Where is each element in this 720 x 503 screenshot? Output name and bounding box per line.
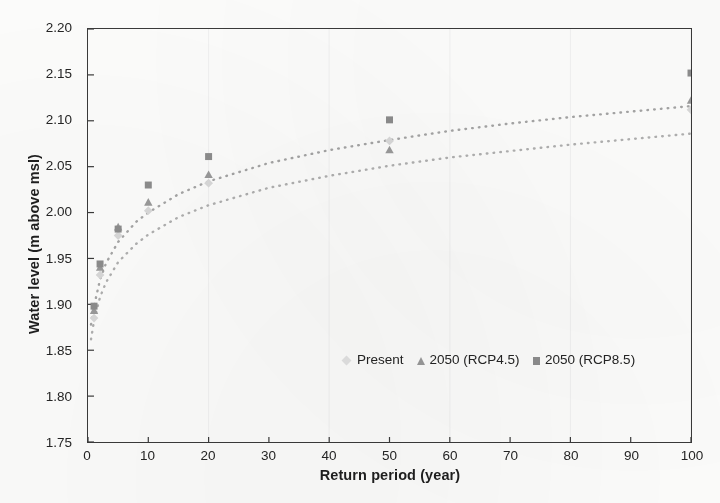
y-tick-label: 2.10 — [16, 113, 72, 127]
y-tick-label: 2.05 — [16, 159, 72, 173]
plot-area — [87, 28, 692, 443]
y-tick-label: 2.20 — [16, 21, 72, 35]
data-point-triangle — [687, 96, 691, 104]
x-tick-label: 10 — [123, 449, 173, 463]
chart-legend: Present 2050 (RCP4.5) 2050 (RCP8.5) — [343, 349, 635, 371]
diamond-marker-icon — [342, 355, 352, 365]
x-tick-label: 70 — [486, 449, 536, 463]
data-point-square — [145, 182, 152, 189]
x-tick-label: 40 — [304, 449, 354, 463]
legend-label-present: Present — [357, 353, 404, 367]
x-tick-label: 50 — [365, 449, 415, 463]
chart-figure: Water level (m above msl) Return period … — [0, 0, 720, 503]
legend-label-rcp45: 2050 (RCP4.5) — [430, 353, 520, 367]
y-tick-label: 1.80 — [16, 390, 72, 404]
x-tick-label: 20 — [183, 449, 233, 463]
data-point-diamond — [144, 206, 153, 215]
data-point-diamond — [385, 137, 394, 146]
data-point-square — [91, 303, 98, 310]
x-tick-label: 0 — [62, 449, 112, 463]
y-tick-label: 1.75 — [16, 436, 72, 450]
data-point-square — [97, 260, 104, 267]
y-tick-label: 2.15 — [16, 67, 72, 81]
data-point-triangle — [385, 146, 393, 154]
data-point-triangle — [144, 198, 152, 206]
data-point-square — [115, 226, 122, 233]
x-tick-label: 90 — [607, 449, 657, 463]
data-point-diamond — [90, 314, 99, 323]
x-tick-label: 60 — [425, 449, 475, 463]
x-tick-label: 80 — [546, 449, 596, 463]
y-tick-label: 2.00 — [16, 205, 72, 219]
y-tick-label: 1.90 — [16, 298, 72, 312]
legend-entry-present: Present — [343, 353, 404, 367]
x-tick-label: 100 — [667, 449, 717, 463]
x-axis-title: Return period (year) — [87, 467, 693, 483]
legend-entry-rcp85: 2050 (RCP8.5) — [533, 353, 636, 367]
x-tick-label: 30 — [244, 449, 294, 463]
legend-label-rcp85: 2050 (RCP8.5) — [545, 353, 635, 367]
data-point-square — [386, 116, 393, 123]
legend-entry-rcp45: 2050 (RCP4.5) — [417, 353, 520, 367]
data-point-square — [688, 70, 691, 77]
triangle-marker-icon — [417, 357, 425, 365]
plot-canvas — [88, 29, 691, 442]
square-marker-icon — [533, 357, 541, 365]
y-tick-label: 1.85 — [16, 344, 72, 358]
data-point-square — [205, 153, 212, 160]
data-point-diamond — [204, 179, 213, 188]
y-tick-label: 1.95 — [16, 252, 72, 266]
data-point-triangle — [204, 171, 212, 179]
trend-curve — [91, 134, 691, 340]
